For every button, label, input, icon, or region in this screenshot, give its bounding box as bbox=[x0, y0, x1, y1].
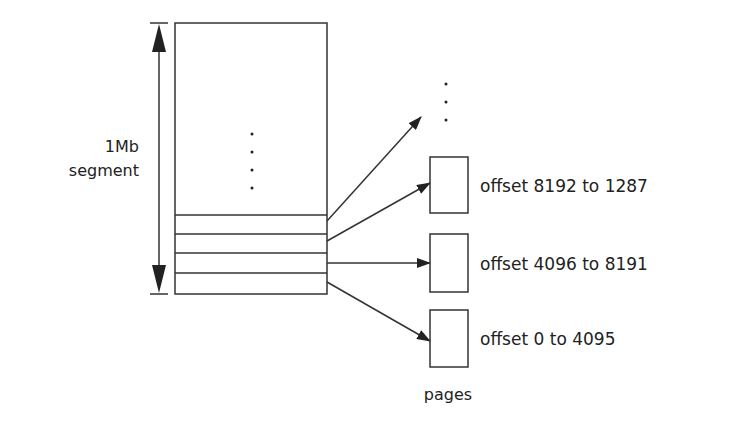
arrow-to-more-pages bbox=[327, 117, 421, 221]
arrow-to-page-0 bbox=[327, 282, 430, 341]
pages-ellipsis-icon bbox=[445, 83, 448, 122]
segment-size-dimension bbox=[150, 23, 168, 294]
arrow-to-page-2 bbox=[327, 183, 430, 241]
segment-page-diagram: 1Mb segment offset 8192 to 1287 offset 4… bbox=[0, 0, 738, 428]
page-box-2 bbox=[430, 157, 468, 213]
segment-box bbox=[175, 23, 327, 294]
segment-size-label: 1Mb bbox=[105, 137, 139, 156]
segment-ellipsis-icon bbox=[251, 133, 254, 190]
page-0-offset-label: offset 0 to 4095 bbox=[480, 329, 615, 349]
page-box-1 bbox=[430, 234, 468, 292]
dimension-arrowhead-up-icon bbox=[152, 24, 166, 52]
page-2-offset-label: offset 8192 to 1287 bbox=[480, 176, 648, 196]
page-boxes bbox=[430, 157, 468, 367]
page-1-offset-label: offset 4096 to 8191 bbox=[480, 254, 648, 274]
dimension-arrowhead-down-icon bbox=[152, 265, 166, 293]
page-table-arrows bbox=[327, 117, 430, 341]
pages-label: pages bbox=[424, 385, 472, 404]
segment-label: segment bbox=[69, 161, 139, 180]
page-box-0 bbox=[430, 310, 468, 367]
